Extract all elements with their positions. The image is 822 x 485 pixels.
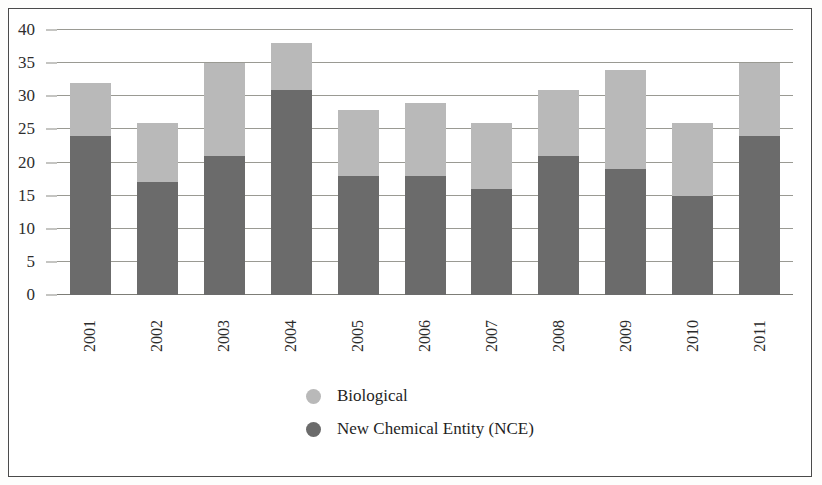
x-tick-label-2002: 2002 <box>137 305 178 345</box>
x-tick-label-text: 2011 <box>751 320 769 351</box>
bar-segment-biological-2007[interactable] <box>471 123 512 189</box>
bar-segment-nce-2011[interactable] <box>739 136 780 295</box>
bar-segment-nce-2001[interactable] <box>70 136 111 295</box>
bar-segment-biological-2006[interactable] <box>405 103 446 176</box>
x-axis: 2001200220032004200520062007200820092010… <box>57 297 793 377</box>
x-tick-label-2006: 2006 <box>405 305 446 345</box>
y-tick-mark-0 <box>46 295 57 296</box>
x-tick-label-2004: 2004 <box>271 305 312 345</box>
x-tick-label-2001: 2001 <box>70 305 111 345</box>
legend-item-nce[interactable]: New Chemical Entity (NCE) <box>0 419 822 439</box>
x-tick-label-text: 2008 <box>550 320 568 352</box>
bar-segment-nce-2006[interactable] <box>405 176 446 295</box>
bar-segment-nce-2002[interactable] <box>137 182 178 295</box>
bar-segment-biological-2005[interactable] <box>338 110 379 176</box>
x-tick-label-2008: 2008 <box>538 305 579 345</box>
x-tick-label-text: 2004 <box>282 320 300 352</box>
x-tick-label-2011: 2011 <box>739 305 780 345</box>
y-tick-label-25: 25 <box>18 119 35 139</box>
x-tick-label-text: 2009 <box>617 320 635 352</box>
y-tick-mark-25 <box>46 129 57 130</box>
x-tick-label-2009: 2009 <box>605 305 646 345</box>
bar-segment-biological-2009[interactable] <box>605 70 646 169</box>
bar-segment-biological-2003[interactable] <box>204 63 245 156</box>
y-tick-label-15: 15 <box>18 186 35 206</box>
bar-segment-nce-2004[interactable] <box>271 90 312 295</box>
y-tick-mark-30 <box>46 96 57 97</box>
y-tick-label-10: 10 <box>18 219 35 239</box>
y-tick-label-30: 30 <box>18 86 35 106</box>
y-tick-mark-10 <box>46 228 57 229</box>
bar-segment-nce-2007[interactable] <box>471 189 512 295</box>
x-tick-label-text: 2007 <box>483 320 501 352</box>
x-tick-label-text: 2006 <box>416 320 434 352</box>
legend-item-biological[interactable]: Biological <box>0 386 822 406</box>
y-tick-label-5: 5 <box>27 252 36 272</box>
x-tick-label-2003: 2003 <box>204 305 245 345</box>
bar-segment-biological-2004[interactable] <box>271 43 312 89</box>
plot-area <box>57 30 793 295</box>
x-tick-label-text: 2003 <box>215 320 233 352</box>
bar-segment-nce-2005[interactable] <box>338 176 379 295</box>
y-tick-mark-20 <box>46 162 57 163</box>
bar-segment-biological-2008[interactable] <box>538 90 579 156</box>
bar-segment-biological-2010[interactable] <box>672 123 713 196</box>
bar-segment-nce-2008[interactable] <box>538 156 579 295</box>
y-axis: 0510152025303540 <box>0 30 57 295</box>
x-tick-label-2005: 2005 <box>338 305 379 345</box>
bar-segment-biological-2011[interactable] <box>739 63 780 136</box>
bar-segment-nce-2010[interactable] <box>672 196 713 295</box>
x-tick-label-text: 2001 <box>81 320 99 352</box>
legend-label: New Chemical Entity (NCE) <box>337 419 534 439</box>
y-tick-mark-40 <box>46 30 57 31</box>
legend-label: Biological <box>337 386 408 406</box>
bar-segment-biological-2002[interactable] <box>137 123 178 183</box>
x-tick-label-2007: 2007 <box>471 305 512 345</box>
bar-segment-nce-2003[interactable] <box>204 156 245 295</box>
bar-segment-nce-2009[interactable] <box>605 169 646 295</box>
chart-legend: BiologicalNew Chemical Entity (NCE) <box>0 386 822 452</box>
x-tick-label-text: 2010 <box>684 320 702 352</box>
bar-segment-biological-2001[interactable] <box>70 83 111 136</box>
bars-layer <box>57 30 793 295</box>
y-tick-label-35: 35 <box>18 53 35 73</box>
x-tick-label-text: 2005 <box>349 320 367 352</box>
y-tick-mark-15 <box>46 195 57 196</box>
circle-icon <box>306 422 321 437</box>
x-tick-label-text: 2002 <box>148 320 166 352</box>
chart-figure: 0510152025303540 20012002200320042005200… <box>0 0 822 485</box>
y-tick-mark-35 <box>46 63 57 64</box>
y-tick-mark-5 <box>46 261 57 262</box>
x-tick-label-2010: 2010 <box>672 305 713 345</box>
y-tick-label-0: 0 <box>27 285 36 305</box>
y-tick-label-20: 20 <box>18 153 35 173</box>
y-tick-label-40: 40 <box>18 20 35 40</box>
circle-icon <box>306 389 321 404</box>
